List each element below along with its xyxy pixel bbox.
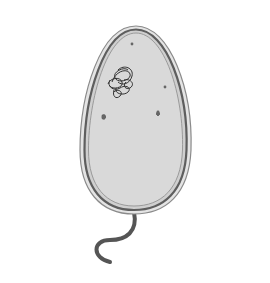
cell-illustration	[0, 0, 270, 283]
bacterial-cell-diagram	[0, 0, 270, 283]
flagellum	[97, 212, 135, 262]
